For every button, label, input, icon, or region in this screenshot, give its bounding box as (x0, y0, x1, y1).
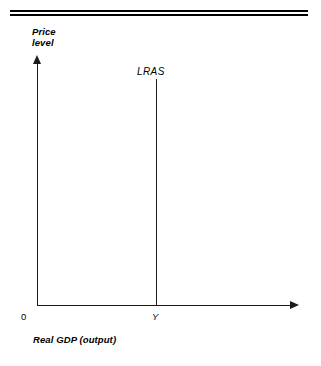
origin-label: 0 (21, 311, 26, 322)
x-axis-line (37, 305, 291, 306)
x-axis-arrowhead-icon (290, 301, 299, 309)
top-rule-lower (10, 14, 308, 16)
y-axis-line (37, 63, 38, 306)
x-axis-title: Real GDP (output) (33, 334, 116, 345)
y-axis-arrowhead-icon (33, 55, 41, 64)
lras-curve (156, 79, 157, 306)
lras-curve-label: LRAS (137, 66, 165, 77)
y-axis-title: Pricelevel (32, 26, 56, 48)
equilibrium-output-tick-label: Y (152, 311, 158, 322)
y-axis-title-line2: level (32, 37, 54, 48)
lras-figure: Pricelevel LRAS 0 Y Real GDP (output) (0, 0, 321, 366)
y-axis-title-line1: Price (32, 26, 56, 37)
top-rule-upper (10, 10, 308, 12)
